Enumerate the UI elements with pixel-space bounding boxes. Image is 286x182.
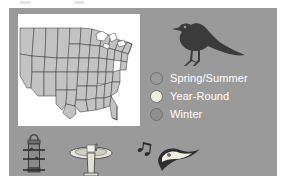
music-note-icon (137, 142, 151, 157)
range-legend: Spring/Summer Year-Round Winter (150, 70, 276, 124)
legend-label-spring-summer: Spring/Summer (170, 72, 248, 85)
legend-swatch-year-round (150, 90, 163, 103)
bird-bath-graphic (68, 140, 114, 176)
legend-item-spring-summer[interactable]: Spring/Summer (150, 70, 276, 86)
blackbird-silhouette-icon (169, 16, 249, 72)
tube-bird-feeder-graphic (21, 128, 47, 176)
tube-bird-feeder-icon (21, 128, 47, 176)
bird-attraction-icons (18, 126, 276, 176)
legend-item-year-round[interactable]: Year-Round (150, 88, 276, 104)
blackbird-graphic (169, 16, 249, 72)
legend-swatch-winter (150, 108, 163, 121)
us-map-graphic (18, 14, 140, 126)
top-edge-artifact (20, 1, 30, 4)
singing-bird-head-icon (136, 138, 204, 176)
legend-item-winter[interactable]: Winter (150, 106, 276, 122)
bird-bath-icon (68, 140, 114, 176)
top-edge-artifact (75, 1, 84, 4)
range-map-infographic: Spring/Summer Year-Round Winter (0, 0, 286, 182)
singing-bird-graphic (136, 138, 204, 176)
legend-swatch-spring-summer (150, 72, 163, 85)
us-range-map[interactable] (18, 14, 140, 126)
content-panel: Spring/Summer Year-Round Winter (9, 8, 277, 176)
legend-label-winter: Winter (170, 108, 202, 121)
legend-label-year-round: Year-Round (170, 90, 229, 103)
